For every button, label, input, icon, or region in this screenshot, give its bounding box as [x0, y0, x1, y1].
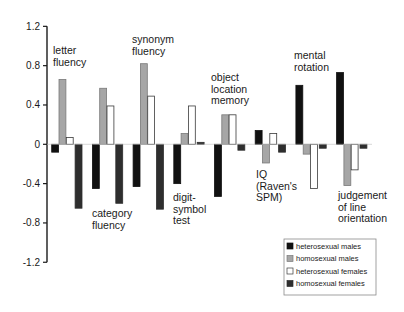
y-tick-label: 0 [34, 139, 40, 150]
bar [66, 137, 73, 144]
bar [360, 144, 367, 148]
bar [255, 131, 262, 145]
y-tick-label: -0.8 [23, 217, 41, 228]
bar-chart: 1.20.80.40-0.4-0.8-1.2 letterfluencycate… [0, 0, 404, 312]
bar [75, 144, 82, 208]
bar [319, 144, 326, 148]
bar [238, 144, 245, 150]
bar [92, 144, 99, 188]
legend-swatch [287, 281, 293, 287]
legend-label: heterosexual females [296, 267, 368, 276]
y-tick-label: -1.2 [23, 257, 41, 268]
bar-group [296, 85, 326, 188]
bar [337, 73, 344, 145]
bar-group [92, 88, 122, 203]
bar-group [52, 79, 82, 208]
bar [215, 144, 222, 196]
bar [296, 85, 303, 144]
category-label: categoryfluency [92, 207, 133, 231]
bar-group [133, 64, 163, 209]
bar [263, 144, 270, 163]
category-label: letterfluency [53, 44, 87, 68]
bar [100, 88, 107, 144]
chart-canvas: 1.20.80.40-0.4-0.8-1.2 letterfluencycate… [0, 0, 404, 312]
legend-item: homosexual males [287, 254, 359, 263]
bar [188, 106, 195, 144]
bar [174, 144, 181, 183]
category-label: mentalrotation [294, 49, 329, 73]
legend-swatch [287, 268, 293, 274]
bar [311, 144, 318, 188]
bars [52, 64, 367, 209]
legend: heterosexual maleshomosexual maleshetero… [284, 239, 376, 295]
legend-label: heterosexual males [296, 242, 361, 251]
bar-group [337, 73, 367, 186]
legend-item: heterosexual females [287, 267, 368, 276]
bar [59, 79, 66, 144]
y-tick-label: 0.4 [26, 99, 40, 110]
bar [270, 133, 277, 144]
bar [52, 144, 59, 152]
category-label: objectlocationmemory [211, 71, 250, 106]
legend-label: homosexual females [296, 279, 365, 288]
bar [279, 144, 286, 152]
bar [140, 64, 147, 145]
y-axis: 1.20.80.40-0.4-0.8-1.2 [23, 21, 47, 268]
bar [303, 144, 310, 154]
category-label: IQ(Raven'sSPM) [256, 168, 297, 203]
bar [344, 144, 351, 185]
bar [229, 115, 236, 144]
y-tick-label: 0.8 [26, 60, 40, 71]
bar [116, 144, 123, 203]
legend-swatch [287, 256, 293, 262]
category-label: synonymfluency [132, 33, 174, 57]
legend-label: homosexual males [296, 254, 359, 263]
bar-group [215, 115, 245, 197]
category-label: digit-symboltest [173, 191, 206, 226]
bar [351, 144, 358, 170]
category-label: judgementof lineorientation [337, 189, 387, 224]
bar [222, 115, 229, 144]
bar [181, 133, 188, 144]
legend-swatch [287, 243, 293, 249]
y-tick-label: 1.2 [26, 21, 40, 32]
bar-group [174, 106, 204, 184]
bar [107, 106, 114, 144]
y-tick-label: -0.4 [23, 178, 41, 189]
bar [148, 96, 155, 144]
legend-item: heterosexual males [287, 242, 361, 251]
bar [157, 144, 164, 209]
bar-group [255, 131, 285, 163]
bar [133, 144, 140, 186]
legend-item: homosexual females [287, 279, 365, 288]
